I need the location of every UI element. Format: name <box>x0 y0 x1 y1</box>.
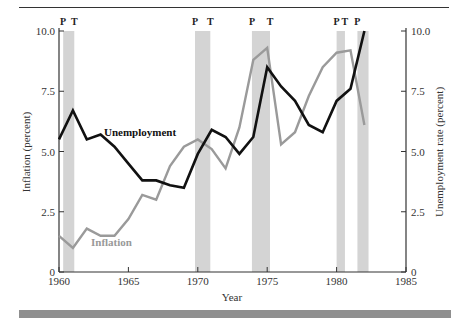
x-tick-label: 1970 <box>187 275 210 287</box>
inflation-label: Inflation <box>91 236 132 248</box>
peak-label: P <box>192 16 198 27</box>
y-tick-right-label: 2.5 <box>411 206 425 218</box>
y-tick-left-label: 10.0 <box>36 25 56 37</box>
recession-band <box>195 31 210 272</box>
inflation-line <box>59 48 364 248</box>
peak-trough-labels: PTPTPTPTP <box>60 16 360 27</box>
x-tick-label: 1965 <box>117 275 140 287</box>
x-tick-label: 1980 <box>326 275 349 287</box>
series-lines <box>59 31 364 248</box>
y-tick-left-label: 7.5 <box>41 85 55 97</box>
y-tick-right-label: 10.0 <box>411 25 431 37</box>
recession-band <box>337 31 345 272</box>
y-tick-right-label: 5.0 <box>411 146 425 158</box>
chart: PTPTPTPTP 02.55.07.510.002.55.07.510.019… <box>0 0 461 318</box>
x-tick-label: 1960 <box>48 275 71 287</box>
peak-label: P <box>354 16 360 27</box>
x-tick-label: 1985 <box>395 275 418 287</box>
peak-label: P <box>249 16 255 27</box>
y-tick-left-label: 2.5 <box>41 206 55 218</box>
recession-band <box>63 31 74 272</box>
unemployment-line <box>59 31 364 188</box>
y-tick-left-label: 5.0 <box>41 146 55 158</box>
x-axis-title: Year <box>222 291 243 303</box>
x-tick-label: 1975 <box>256 275 279 287</box>
y-axis-right-title: Unemployment rate (percent) <box>433 87 446 217</box>
y-tick-right-label: 7.5 <box>411 85 425 97</box>
trough-label: T <box>71 16 78 27</box>
trough-label: T <box>342 16 349 27</box>
recession-band <box>357 31 368 272</box>
peak-label: P <box>60 16 66 27</box>
peak-label: P <box>334 16 340 27</box>
trough-label: T <box>207 16 214 27</box>
footer-bar <box>19 310 451 318</box>
trough-label: T <box>267 16 274 27</box>
unemployment-label: Unemployment <box>104 126 176 138</box>
y-axis-left-title: Inflation (percent) <box>20 112 33 193</box>
